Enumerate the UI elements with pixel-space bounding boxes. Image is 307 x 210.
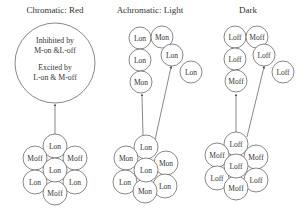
title-achromatic: Achromatic: Light (117, 5, 184, 15)
cell-label: Lon (140, 143, 152, 152)
cell-label: Loff (257, 51, 271, 60)
right-stack: Mon Lon Lon (151, 26, 202, 83)
cell-label: Lon (69, 178, 81, 187)
cell-label: Moff (228, 77, 244, 86)
cell-label: Mon (159, 159, 173, 168)
cell-label: Loff (210, 174, 224, 183)
title-chromatic: Chromatic: Red (26, 5, 84, 15)
cell-label: Lon (29, 178, 41, 187)
arrow-line (142, 95, 143, 135)
cell-label: Moff (249, 33, 265, 42)
cell-label: Moff (248, 153, 264, 162)
cell-label: Mon (138, 187, 152, 196)
rosette: Lon Mon Mon Lon Lon Mon Lon (113, 135, 178, 203)
cell-label: Lon (49, 166, 61, 175)
cell-label: Lon (119, 178, 131, 187)
cell-label: Moff (27, 154, 43, 163)
receptive-field-diagram: Chromatic: Red Achromatic: Light Dark In… (0, 0, 307, 210)
chromatic-column: Inhibited by M-on &L-off Excited by L-on… (15, 23, 95, 205)
big-circle-text: L-on & M-off (33, 73, 77, 82)
rosette: Loff Moff Moff Loff Loff Moff Loff (205, 132, 268, 200)
cell-label: Lon (134, 34, 146, 43)
cell-label: Loff (276, 68, 290, 77)
cell-label: Loff (229, 162, 243, 171)
cell-label: Mon (155, 33, 169, 42)
cell-label: Loff (228, 55, 242, 64)
cell-label: Mon (119, 154, 133, 163)
rosette: Lon Moff Moff Lon Lon Moff Lon (23, 134, 87, 205)
cell-label: Moff (67, 154, 83, 163)
cell-label: Lon (159, 182, 171, 191)
big-circle-text: Excited by (38, 63, 72, 72)
cell-label: Loff (229, 140, 243, 149)
cell-label: Moff (47, 189, 63, 198)
cell-label: Lon (140, 166, 152, 175)
cell-label: Lon (134, 56, 146, 65)
cell-label: Loff (228, 33, 242, 42)
title-dark: Dark (239, 5, 257, 15)
right-stack: Moff Loff Loff (246, 26, 294, 83)
cell-label: Loff (249, 176, 263, 185)
big-circle-text: Inhibited by (36, 36, 74, 45)
arrow-line (155, 67, 171, 140)
big-circle-text: M-on &L-off (34, 46, 76, 55)
cell-label: Lon (49, 142, 61, 151)
left-stack: Loff Loff Moff (224, 26, 247, 92)
cell-label: Moff (228, 184, 244, 193)
achromatic-column: Lon Lon Mon Mon Lon Lon Lon Mon Mon Lon … (113, 26, 202, 203)
arrow-line (247, 67, 264, 137)
cell-label: Lon (166, 51, 178, 60)
dark-column: Loff Loff Moff Moff Loff Loff Loff Moff … (205, 26, 294, 200)
cell-label: Moff (209, 151, 225, 160)
cell-label: Lon (185, 68, 197, 77)
left-stack: Lon Lon Mon (129, 27, 152, 93)
cell-label: Mon (134, 78, 148, 87)
